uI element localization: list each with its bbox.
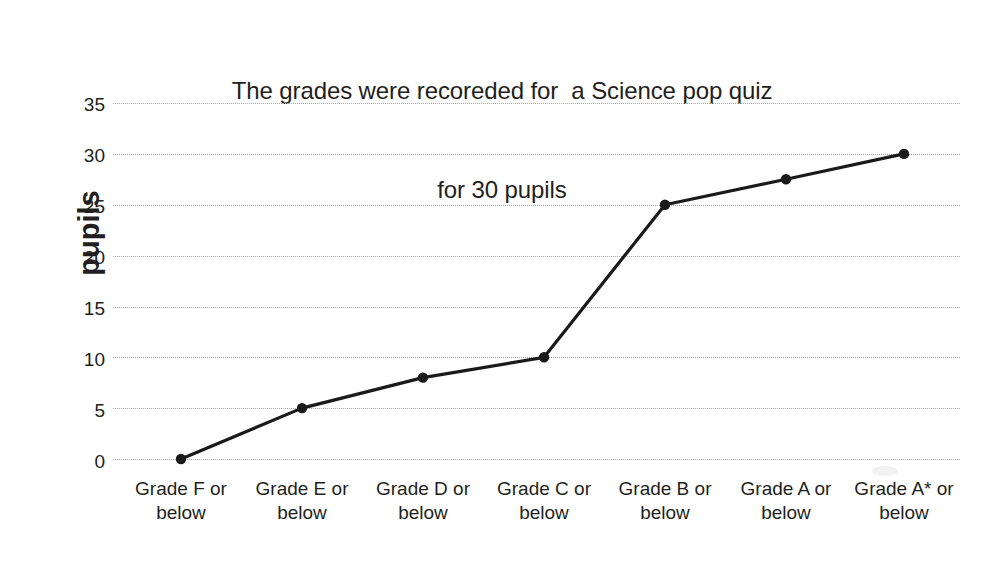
gridline-35 — [113, 103, 960, 104]
gridline-30 — [113, 154, 960, 155]
y-tick-label-30: 30 — [59, 146, 105, 165]
gridline-0 — [113, 459, 960, 460]
y-tick-label-35: 35 — [59, 95, 105, 114]
chart-container: The grades were recoreded for a Science … — [0, 0, 1004, 565]
y-tick-label-10: 10 — [59, 350, 105, 369]
y-tick-label-5: 5 — [59, 401, 105, 420]
y-tick-label-15: 15 — [59, 299, 105, 318]
gridline-15 — [113, 307, 960, 308]
y-tick-label-20: 20 — [59, 248, 105, 267]
x-axis-labels: Grade F or below Grade E or below Grade … — [0, 477, 1004, 537]
gridline-5 — [113, 408, 960, 409]
y-tick-label-25: 25 — [59, 197, 105, 216]
y-axis-tick-labels: 35 30 25 20 15 10 5 0 — [55, 0, 105, 356]
gridline-25 — [113, 205, 960, 206]
gridline-10 — [113, 357, 960, 358]
gridline-20 — [113, 256, 960, 257]
plot-area — [113, 103, 960, 459]
x-label-grade-a-star: Grade A* or below — [829, 477, 979, 525]
scan-artifact — [872, 466, 898, 476]
y-tick-label-0: 0 — [59, 452, 105, 471]
